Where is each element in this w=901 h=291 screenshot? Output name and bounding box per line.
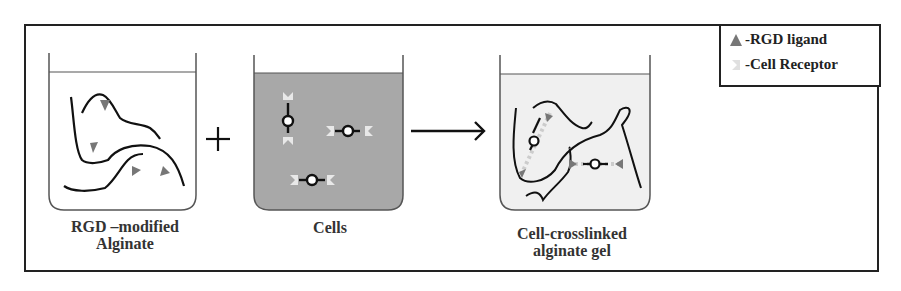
caption-rgd-alginate: RGD –modified Alginate bbox=[50, 218, 200, 252]
legend-item-cell-receptor: -Cell Receptor bbox=[729, 56, 838, 73]
caption-line: RGD –modified bbox=[50, 218, 200, 235]
caption-cells: Cells bbox=[280, 219, 380, 236]
beaker-crosslinked-gel bbox=[500, 55, 650, 210]
legend-item-rgd-ligand: -RGD ligand bbox=[729, 31, 827, 48]
triangle-icon bbox=[729, 33, 743, 47]
beaker-cells bbox=[254, 55, 403, 210]
plus-icon bbox=[206, 127, 230, 151]
caption-line: Alginate bbox=[50, 235, 200, 252]
receptor-icon bbox=[729, 58, 743, 72]
caption-crosslinked-gel: Cell-crosslinked alginate gel bbox=[497, 225, 647, 259]
arrow-right-icon bbox=[411, 122, 484, 140]
cell-horizontal-icon bbox=[326, 126, 373, 136]
legend: -RGD ligand -Cell Receptor bbox=[719, 24, 881, 87]
legend-label: -RGD ligand bbox=[745, 31, 827, 48]
cell-vertical-icon bbox=[283, 92, 293, 145]
legend-label: -Cell Receptor bbox=[745, 56, 838, 73]
caption-line: Cell-crosslinked bbox=[497, 225, 647, 242]
caption-line: Cells bbox=[280, 219, 380, 236]
cell-bottom-icon bbox=[290, 175, 335, 185]
caption-line: alginate gel bbox=[497, 242, 647, 259]
beaker-rgd-alginate bbox=[49, 53, 196, 210]
